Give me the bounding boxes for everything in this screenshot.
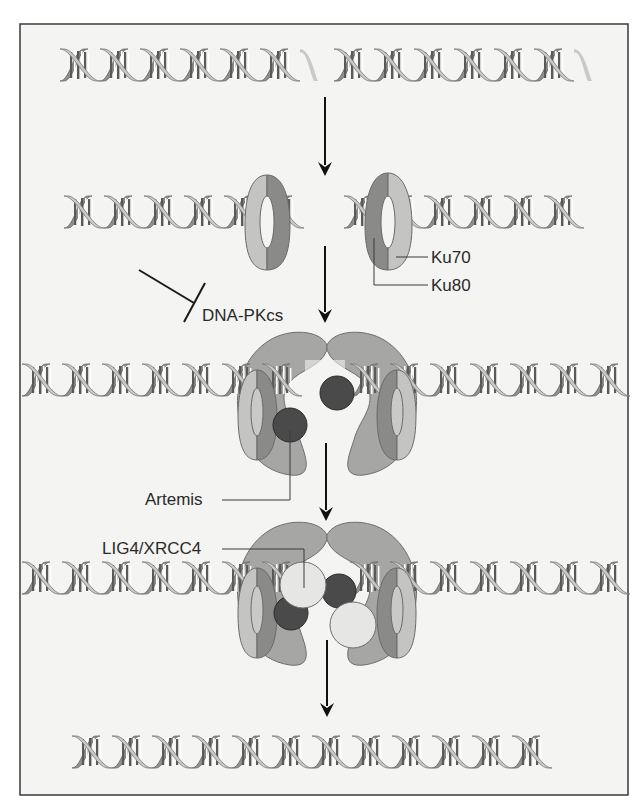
ku-heterodimer-left-row4 — [238, 568, 277, 658]
lig4-xrcc4-sphere — [280, 562, 326, 608]
lig4-xrcc4-sphere — [330, 602, 376, 648]
ku-heterodimer-left — [245, 175, 290, 270]
label-ku80: Ku80 — [431, 277, 471, 294]
label-ku70: Ku70 — [431, 249, 471, 266]
ku-heterodimer-right-row3 — [377, 370, 416, 460]
label-dnapkcs: DNA-PKcs — [202, 307, 283, 324]
label-artemis: Artemis — [145, 491, 203, 508]
nhej-diagram — [0, 0, 640, 812]
ku-heterodimer-right — [365, 173, 412, 270]
artemis-sphere — [320, 376, 354, 410]
label-lig4-xrcc4: LIG4/XRCC4 — [102, 540, 201, 557]
ku-heterodimer-right-row4 — [377, 568, 416, 658]
ku-heterodimer-left-row3 — [238, 370, 277, 460]
